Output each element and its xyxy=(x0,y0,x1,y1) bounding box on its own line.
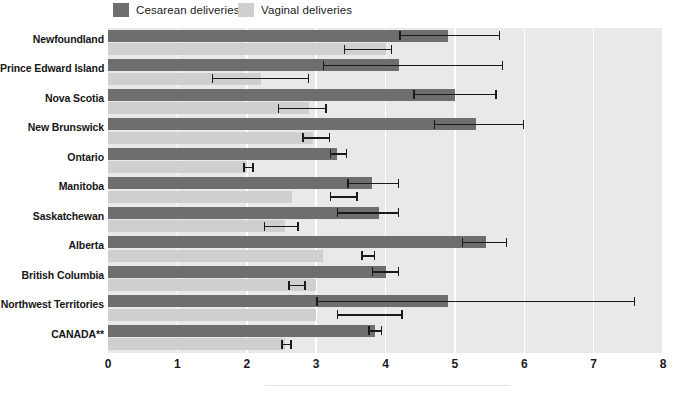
bar-vaginal xyxy=(108,338,285,350)
error-bar-cap-low xyxy=(278,104,279,113)
error-bar-vaginal xyxy=(361,251,375,260)
category-label: Ontario xyxy=(0,151,104,163)
x-axis-tick-label: 3 xyxy=(313,357,320,371)
bar-vaginal xyxy=(108,250,323,262)
error-bar-vaginal xyxy=(344,45,393,54)
error-bar-cap-low xyxy=(434,120,435,129)
error-bar-cap-high xyxy=(634,297,635,306)
category-label: Saskatchewan xyxy=(0,210,104,222)
error-bar-cap-low xyxy=(462,238,463,247)
x-axis-tick-label: 7 xyxy=(590,357,597,371)
error-bar-line xyxy=(212,78,309,79)
error-bar-vaginal xyxy=(288,281,305,290)
bar-cesarean xyxy=(108,30,448,42)
chart-legend: Cesarean deliveries Vaginal deliveries xyxy=(0,0,673,22)
error-bar-vaginal xyxy=(278,104,327,113)
legend-swatch-vaginal-icon xyxy=(238,3,254,17)
error-bar-cesarean xyxy=(323,61,503,70)
error-bar-cap-high xyxy=(252,163,253,172)
error-bar-cap-low xyxy=(399,31,400,40)
error-bar-cesarean xyxy=(372,267,400,276)
bar-cesarean xyxy=(108,118,476,130)
error-bar-cap-low xyxy=(344,45,345,54)
error-bar-line xyxy=(323,65,503,66)
x-axis-tick-label: 5 xyxy=(452,357,459,371)
error-bar-cap-low xyxy=(337,208,338,217)
error-bar-cap-low xyxy=(302,133,303,142)
error-bar-line xyxy=(462,242,507,243)
error-bar-cap-low xyxy=(212,74,213,83)
plot-area xyxy=(108,28,663,353)
bar-vaginal xyxy=(108,279,316,291)
gridline xyxy=(662,28,664,353)
legend-label-cesarean: Cesarean deliveries xyxy=(136,4,240,16)
error-bar-cap-high xyxy=(308,74,309,83)
error-bar-cap-low xyxy=(372,267,373,276)
error-bar-cap-high xyxy=(346,149,347,158)
x-axis-tick-label: 1 xyxy=(174,357,181,371)
bar-vaginal xyxy=(108,191,292,203)
error-bar-line xyxy=(330,153,347,154)
error-bar-line xyxy=(278,108,327,109)
error-bar-vaginal xyxy=(212,74,309,83)
x-axis-tick-label: 6 xyxy=(521,357,528,371)
error-bar-cap-high xyxy=(502,61,503,70)
error-bar-cap-high xyxy=(356,192,357,201)
error-bar-line xyxy=(399,35,500,36)
error-bar-line xyxy=(434,124,524,125)
error-bar-line xyxy=(413,94,496,95)
error-bar-cap-low xyxy=(288,281,289,290)
bar-vaginal xyxy=(108,309,316,321)
bar-cesarean xyxy=(108,148,337,160)
error-bar-vaginal xyxy=(264,222,299,231)
bar-vaginal xyxy=(108,132,313,144)
error-bar-cap-low xyxy=(323,61,324,70)
error-bar-cesarean xyxy=(399,31,500,40)
bar-cesarean xyxy=(108,325,375,337)
error-bar-cap-low xyxy=(361,251,362,260)
error-bar-cap-high xyxy=(329,133,330,142)
error-bar-vaginal xyxy=(337,310,403,319)
error-bar-cap-high xyxy=(523,120,524,129)
bar-cesarean xyxy=(108,236,486,248)
error-bar-cesarean xyxy=(347,179,399,188)
error-bar-cap-low xyxy=(413,90,414,99)
error-bar-vaginal xyxy=(243,163,253,172)
error-bar-cap-high xyxy=(325,104,326,113)
error-bar-cap-high xyxy=(398,179,399,188)
error-bar-vaginal xyxy=(302,133,330,142)
error-bar-cesarean xyxy=(434,120,524,129)
x-axis-tick-label: 0 xyxy=(105,357,112,371)
error-bar-cap-high xyxy=(398,208,399,217)
category-label: Newfoundland xyxy=(0,33,104,45)
error-bar-cap-high xyxy=(290,340,291,349)
category-label: New Brunswick xyxy=(0,121,104,133)
legend-item-cesarean: Cesarean deliveries xyxy=(113,2,240,18)
error-bar-cap-high xyxy=(304,281,305,290)
error-bar-cap-low xyxy=(347,179,348,188)
legend-swatch-cesarean-icon xyxy=(113,3,129,17)
error-bar-cap-high xyxy=(374,251,375,260)
error-bar-line xyxy=(337,212,399,213)
error-bar-cesarean xyxy=(413,90,496,99)
chart-root: Cesarean deliveries Vaginal deliveries N… xyxy=(0,0,673,393)
error-bar-cap-high xyxy=(499,31,500,40)
error-bar-cesarean xyxy=(337,208,399,217)
category-label: CANADA** xyxy=(0,328,104,340)
category-label: Northwest Territories xyxy=(0,298,104,310)
error-bar-cesarean xyxy=(368,326,382,335)
error-bar-line xyxy=(372,271,400,272)
x-axis-tick-label: 2 xyxy=(243,357,250,371)
error-bar-line xyxy=(347,183,399,184)
error-bar-cap-high xyxy=(506,238,507,247)
error-bar-line xyxy=(344,49,393,50)
error-bar-line xyxy=(316,301,635,302)
error-bar-cap-low xyxy=(330,192,331,201)
error-bar-cap-low xyxy=(281,340,282,349)
bar-cesarean xyxy=(108,177,372,189)
x-axis-tick-label: 8 xyxy=(660,357,667,371)
error-bar-cap-high xyxy=(401,310,402,319)
error-bar-cap-low xyxy=(368,326,369,335)
error-bar-cesarean xyxy=(330,149,347,158)
error-bar-vaginal xyxy=(281,340,291,349)
